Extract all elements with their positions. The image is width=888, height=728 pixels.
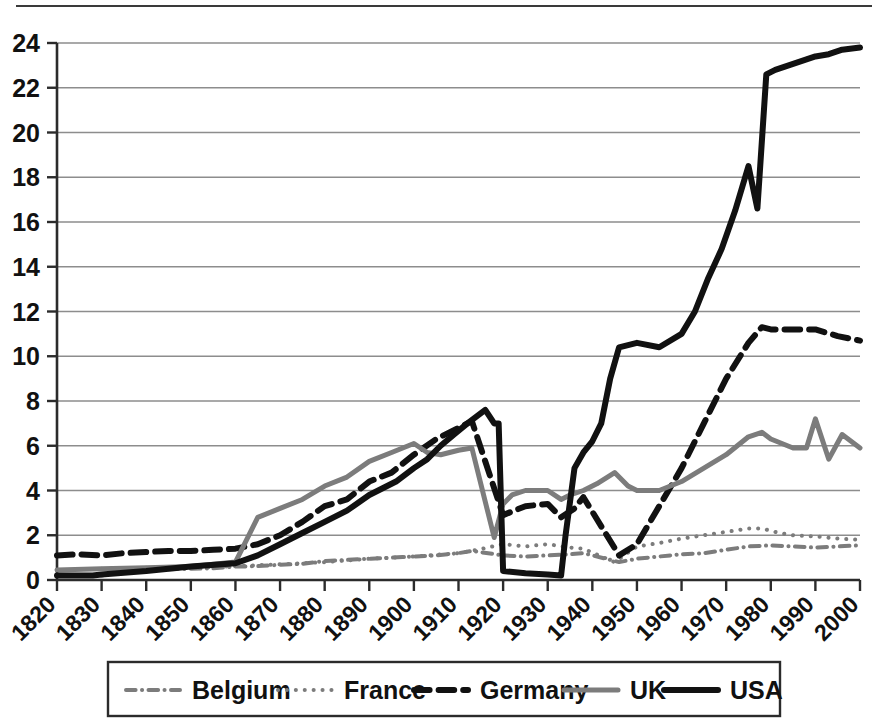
x-tick-label: 1910: [407, 591, 462, 646]
x-tick-label: 1820: [6, 591, 61, 646]
y-tick-label: 0: [26, 566, 40, 594]
line-chart: 024681012141618202224 182018301840185018…: [0, 0, 888, 728]
y-tick-label: 2: [26, 521, 40, 549]
x-tick-label: 1930: [497, 591, 552, 646]
x-tick-label-group: 1820183018401850186018701880189019001910…: [6, 591, 864, 646]
y-tick-label: 10: [12, 342, 40, 370]
x-tick-label: 1970: [675, 591, 730, 646]
x-tick-label: 1860: [184, 591, 239, 646]
x-tick-label: 1960: [631, 591, 686, 646]
legend-label-belgium: Belgium: [192, 676, 291, 704]
y-tick-label-group: 024681012141618202224: [12, 29, 40, 594]
x-tick-label: 1830: [51, 591, 106, 646]
legend-label-uk: UK: [630, 676, 666, 704]
y-tick-label: 20: [12, 119, 40, 147]
x-tick-label: 2000: [809, 591, 864, 646]
x-tick-label: 1920: [452, 591, 507, 646]
y-tick-label: 4: [26, 477, 40, 505]
x-tick-label: 1870: [229, 591, 284, 646]
x-tick-label: 1850: [140, 591, 195, 646]
x-tick-label: 1990: [764, 591, 819, 646]
y-tick-label: 22: [12, 74, 40, 102]
x-tick-label: 1940: [541, 591, 596, 646]
y-tick-group: [47, 43, 57, 580]
page-top-rule: [16, 5, 872, 7]
y-tick-label: 6: [26, 432, 40, 460]
y-tick-label: 16: [12, 208, 40, 236]
x-tick-label: 1840: [95, 591, 150, 646]
x-tick-label: 1890: [318, 591, 373, 646]
x-tick-label: 1980: [720, 591, 775, 646]
y-tick-label: 14: [12, 253, 40, 281]
x-tick-label: 1880: [274, 591, 329, 646]
x-tick-label: 1950: [586, 591, 641, 646]
y-tick-label: 18: [12, 163, 40, 191]
x-tick-label: 1900: [363, 591, 418, 646]
y-tick-label: 12: [12, 298, 40, 326]
chart-legend: BelgiumFranceGermanyUKUSA: [108, 662, 783, 716]
legend-label-usa: USA: [730, 676, 783, 704]
y-tick-label: 24: [12, 29, 40, 57]
x-tick-group: [57, 580, 860, 591]
y-tick-label: 8: [26, 387, 40, 415]
chart-figure: 024681012141618202224 182018301840185018…: [0, 0, 888, 728]
